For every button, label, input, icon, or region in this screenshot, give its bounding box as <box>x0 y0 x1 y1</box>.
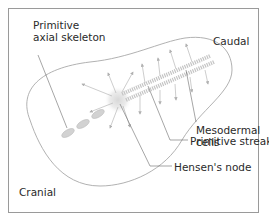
axial-skeleton-segments <box>60 108 105 140</box>
label-primitive-axial-skeleton: Primitive axial skeleton <box>33 19 105 43</box>
primitive-streak <box>122 56 214 100</box>
label-line: axial skeleton <box>33 31 105 43</box>
label-primitive-streak: Primitive streak <box>190 135 269 147</box>
label-cranial: Cranial <box>19 186 56 198</box>
label-line: Primitive <box>33 19 105 31</box>
label-caudal: Caudal <box>213 35 249 47</box>
label-hensens-node: Hensen's node <box>174 161 252 173</box>
